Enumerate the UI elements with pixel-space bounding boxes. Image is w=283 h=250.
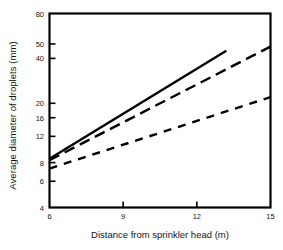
x-tick-label: 9 — [121, 212, 125, 221]
y-tick-label: 6 — [20, 177, 44, 186]
plot-frame — [50, 14, 271, 208]
y-tick-label: 80 — [20, 9, 44, 18]
x-axis-title: Distance from sprinkler head (m) — [49, 229, 271, 240]
y-tick-label: 4 — [20, 203, 44, 212]
y-tick-label: 50 — [20, 39, 44, 48]
x-tick-label: 6 — [47, 212, 51, 221]
y-tick-label: 12 — [20, 132, 44, 141]
x-axis-title-text: Distance from sprinkler head (m) — [91, 229, 229, 240]
y-tick-label: 16 — [20, 113, 44, 122]
chart-figure: 805040201612864 691215 Average diameter … — [0, 0, 283, 250]
x-tick-label: 15 — [266, 212, 274, 221]
chart-canvas — [0, 0, 283, 250]
x-tick-label: 12 — [193, 212, 201, 221]
y-tick-label: 8 — [20, 158, 44, 167]
y-tick-label: 40 — [20, 54, 44, 63]
y-tick-label: 20 — [20, 99, 44, 108]
